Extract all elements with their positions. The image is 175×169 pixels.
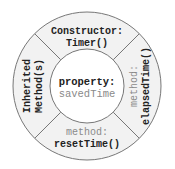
segment-left-label: Inherited <box>22 59 33 113</box>
center-property-value: savedTime <box>59 88 116 100</box>
segment-bottom-value: resetTime() <box>54 139 120 150</box>
object-ring-diagram: property: savedTime Constructor: Timer()… <box>0 0 175 169</box>
segment-bottom-label: method: <box>66 127 108 138</box>
segment-top-label: Constructor: <box>51 26 123 37</box>
center-property-label: property: <box>59 76 116 88</box>
segment-left-value: Method(s) <box>34 59 45 113</box>
segment-right-label: method: <box>129 65 140 107</box>
segment-top-value: Timer() <box>66 38 108 49</box>
segment-right-value: elapsedTime() <box>141 47 152 125</box>
